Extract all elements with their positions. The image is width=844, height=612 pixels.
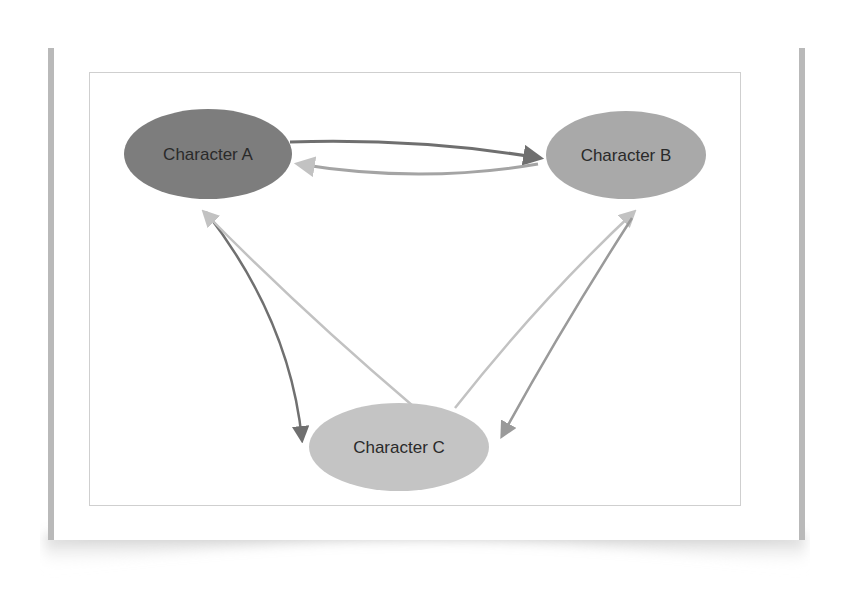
- edge-a-to-b: [290, 141, 540, 158]
- node-character-c[interactable]: Character C: [309, 403, 489, 491]
- relationship-diagram: Character A Character B Character C: [0, 0, 844, 612]
- edge-b-to-a: [298, 164, 538, 174]
- node-character-b[interactable]: Character B: [546, 111, 706, 199]
- node-label-b: Character B: [581, 146, 672, 165]
- edge-a-to-c: [206, 212, 302, 440]
- node-label-a: Character A: [163, 145, 253, 164]
- edge-c-to-a: [204, 212, 413, 406]
- node-character-a[interactable]: Character A: [124, 109, 292, 199]
- edge-c-to-b: [455, 212, 634, 408]
- node-label-c: Character C: [353, 438, 445, 457]
